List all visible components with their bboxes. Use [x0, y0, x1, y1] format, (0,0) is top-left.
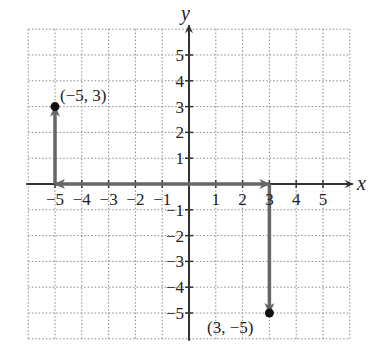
x-tick-label: −5: [46, 190, 64, 209]
x-tick-label: 1: [212, 190, 221, 209]
x-tick-label: 3: [265, 190, 274, 209]
point-label-b: (3, −5): [207, 318, 253, 337]
x-axis-label: x: [356, 172, 366, 194]
coordinate-plane: −5−4−3−2−112345−5−4−3−2−112345 x y (−5, …: [0, 0, 378, 358]
y-tick-label: −5: [166, 304, 184, 323]
point-label-a: (−5, 3): [60, 86, 106, 105]
y-tick-label: 4: [176, 72, 185, 91]
y-tick-label: −1: [166, 201, 184, 220]
y-tick-label: 2: [176, 123, 185, 142]
y-tick-label: −4: [166, 278, 185, 297]
y-tick-label: 1: [176, 149, 185, 168]
y-tick-label: −2: [166, 227, 184, 246]
x-tick-label: 5: [319, 190, 328, 209]
x-tick-label: 4: [292, 190, 301, 209]
x-tick-label: −4: [73, 190, 92, 209]
x-tick-label: −3: [100, 190, 118, 209]
y-axis-label: y: [179, 2, 190, 25]
y-tick-label: 3: [176, 98, 185, 117]
y-tick-label: −3: [166, 252, 184, 271]
x-tick-label: −2: [126, 190, 144, 209]
y-tick-label: 5: [176, 46, 185, 65]
data-point: [265, 309, 274, 318]
x-tick-label: 2: [238, 190, 247, 209]
data-point: [51, 102, 60, 111]
